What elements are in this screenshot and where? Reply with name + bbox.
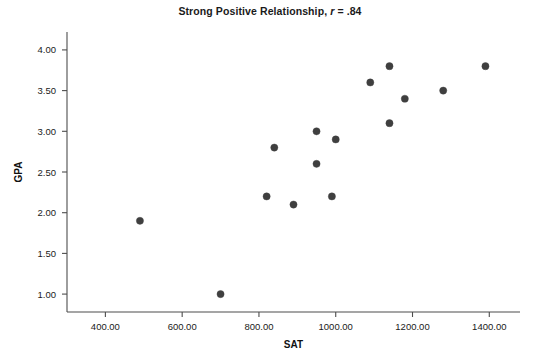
data-point-marker	[136, 217, 143, 224]
x-tick-label: 1200.00	[395, 321, 429, 332]
data-point-marker	[271, 144, 278, 151]
x-tick-label: 1000.00	[319, 321, 353, 332]
x-tick-label: 600.00	[168, 321, 197, 332]
y-tick-label: 1.50	[38, 248, 57, 259]
data-point-marker	[367, 79, 374, 86]
x-tick-labels: 400.00600.00800.001000.001200.001400.00	[91, 321, 507, 332]
y-tick-label: 4.00	[38, 44, 57, 55]
data-point-marker	[313, 128, 320, 135]
y-tick-label: 2.00	[38, 207, 57, 218]
data-point-marker	[332, 136, 339, 143]
data-point-marker	[290, 201, 297, 208]
data-point-marker	[401, 95, 408, 102]
x-tick-label: 1400.00	[472, 321, 506, 332]
data-point-marker	[328, 193, 335, 200]
axes	[67, 32, 520, 312]
y-tick-label: 2.50	[38, 167, 57, 178]
data-point-marker	[313, 160, 320, 167]
y-tick-labels: 1.001.502.002.503.003.504.00	[38, 44, 57, 299]
x-axis-title: SAT	[284, 339, 303, 350]
tick-marks	[62, 50, 489, 317]
plot-canvas: 400.00600.00800.001000.001200.001400.00 …	[0, 0, 540, 359]
data-point-marker	[440, 87, 447, 94]
data-point-marker	[386, 120, 393, 127]
data-point-marker	[482, 63, 489, 70]
data-point-marker	[217, 290, 224, 297]
y-tick-label: 1.00	[38, 289, 57, 300]
y-axis-title: GPA	[13, 162, 24, 183]
data-point-marker	[263, 193, 270, 200]
x-tick-label: 400.00	[91, 321, 120, 332]
y-tick-label: 3.00	[38, 126, 57, 137]
y-tick-label: 3.50	[38, 85, 57, 96]
x-tick-label: 800.00	[244, 321, 273, 332]
data-points	[136, 63, 489, 298]
data-point-marker	[386, 63, 393, 70]
scatter-plot-figure: Strong Positive Relationship, r = .84 40…	[0, 0, 540, 359]
